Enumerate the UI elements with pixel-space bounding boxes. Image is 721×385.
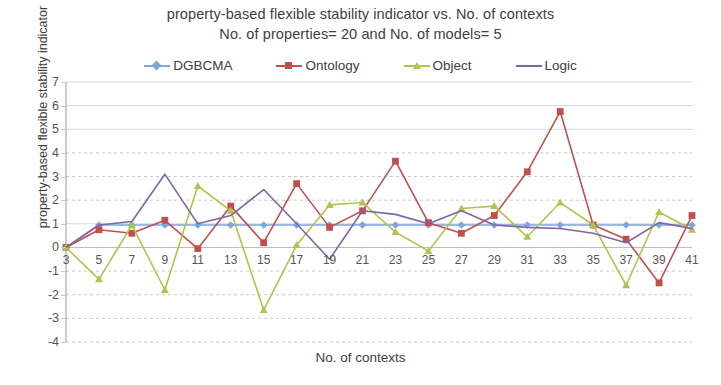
y-axis-tick-mark	[61, 129, 66, 130]
data-point-marker	[392, 158, 399, 165]
plot-area: -4-3-2-101234567357911131517192123252729…	[66, 82, 692, 342]
data-point-marker	[557, 108, 564, 115]
x-axis-tick-label: 3	[63, 253, 70, 267]
series-line	[66, 186, 692, 310]
x-axis-tick-label: 35	[586, 253, 599, 267]
data-point-marker	[161, 286, 169, 293]
series-ontology	[63, 108, 696, 286]
y-axis-tick-label: 4	[52, 146, 59, 160]
legend-label: Logic	[545, 58, 577, 73]
y-axis-tick-label: -1	[48, 264, 59, 278]
chart-legend: DGBCMAOntologyObjectLogic	[0, 58, 721, 73]
y-axis-tick-label: 7	[52, 75, 59, 89]
y-axis-tick-label: -4	[48, 335, 59, 349]
y-axis-tick-label: 0	[52, 240, 59, 254]
y-axis-tick-label: 5	[52, 122, 59, 136]
y-axis-tick-label: 2	[52, 193, 59, 207]
x-axis-tick-label: 21	[356, 253, 369, 267]
x-axis-tick-label: 25	[422, 253, 435, 267]
x-axis-tick-label: 41	[685, 253, 698, 267]
data-point-marker	[491, 212, 498, 219]
series-line	[66, 225, 692, 247]
x-axis-tick-label: 23	[389, 253, 402, 267]
data-point-marker	[689, 212, 696, 219]
y-axis-tick-mark	[61, 200, 66, 201]
data-point-marker	[392, 221, 400, 229]
chart-title-line-1: property-based flexible stability indica…	[0, 4, 721, 24]
legend-swatch-icon	[516, 60, 542, 72]
legend-swatch-icon	[276, 60, 302, 72]
y-axis-tick-mark	[61, 177, 66, 178]
x-axis-tick-label: 19	[323, 253, 336, 267]
y-axis-tick-label: -2	[48, 288, 59, 302]
legend-item-object[interactable]: Object	[404, 58, 472, 73]
chart-container: property-based flexible stability indica…	[0, 0, 721, 385]
x-axis-tick-label: 11	[192, 253, 204, 267]
data-point-marker	[326, 224, 333, 231]
data-point-marker	[458, 230, 465, 237]
data-point-marker	[260, 221, 268, 229]
y-axis-tick-mark	[61, 342, 66, 343]
data-point-marker	[227, 221, 235, 229]
x-axis-tick-label: 29	[488, 253, 501, 267]
x-axis-tick-label: 9	[161, 253, 168, 267]
data-point-marker	[359, 221, 367, 229]
chart-title-line-2: No. of properties= 20 and No. of models=…	[0, 24, 721, 44]
data-point-marker	[622, 281, 630, 288]
data-point-marker	[260, 306, 268, 313]
x-axis-title: No. of contexts	[0, 350, 721, 365]
x-axis-tick-label: 5	[96, 253, 103, 267]
data-point-marker	[622, 221, 630, 229]
legend-swatch-icon	[144, 60, 170, 72]
y-axis-tick-mark	[61, 224, 66, 225]
data-point-marker	[260, 239, 267, 246]
x-axis-tick-label: 7	[129, 253, 136, 267]
y-axis-tick-label: 1	[52, 217, 59, 231]
y-axis-tick-mark	[61, 271, 66, 272]
y-axis-tick-mark	[61, 106, 66, 107]
data-point-marker	[524, 168, 531, 175]
y-axis-tick-mark	[61, 82, 66, 83]
y-axis-tick-label: -3	[48, 311, 59, 325]
x-axis-tick-label: 15	[257, 253, 270, 267]
data-point-marker	[655, 208, 663, 215]
y-axis-tick-label: 6	[52, 99, 59, 113]
y-axis-tick-mark	[61, 295, 66, 296]
x-axis-tick-label: 13	[224, 253, 237, 267]
x-axis-tick-label: 27	[455, 253, 468, 267]
x-axis-tick-label: 37	[619, 253, 632, 267]
chart-title-block: property-based flexible stability indica…	[0, 4, 721, 44]
data-point-marker	[194, 182, 202, 189]
legend-label: DGBCMA	[173, 58, 232, 73]
data-point-marker	[556, 199, 564, 206]
y-axis-tick-mark	[61, 153, 66, 154]
y-axis-tick-label: 3	[52, 170, 59, 184]
legend-item-logic[interactable]: Logic	[516, 58, 577, 73]
data-point-marker	[656, 280, 663, 287]
y-axis-title: property-based flexible stability indica…	[36, 0, 50, 242]
legend-label: Object	[433, 58, 472, 73]
plot-svg	[66, 82, 692, 342]
x-axis-tick-label: 31	[521, 253, 534, 267]
y-axis-tick-mark	[61, 318, 66, 319]
x-axis-tick-label: 33	[554, 253, 567, 267]
legend-item-dgbcma[interactable]: DGBCMA	[144, 58, 232, 73]
data-point-marker	[194, 245, 201, 252]
data-point-marker	[458, 221, 466, 229]
data-point-marker	[161, 217, 168, 224]
legend-swatch-icon	[404, 60, 430, 72]
x-axis-tick-label: 17	[290, 253, 303, 267]
legend-item-ontology[interactable]: Ontology	[276, 58, 359, 73]
x-axis-tick-label: 39	[652, 253, 665, 267]
y-axis-tick-mark	[61, 247, 66, 248]
data-point-marker	[293, 180, 300, 187]
legend-label: Ontology	[305, 58, 359, 73]
